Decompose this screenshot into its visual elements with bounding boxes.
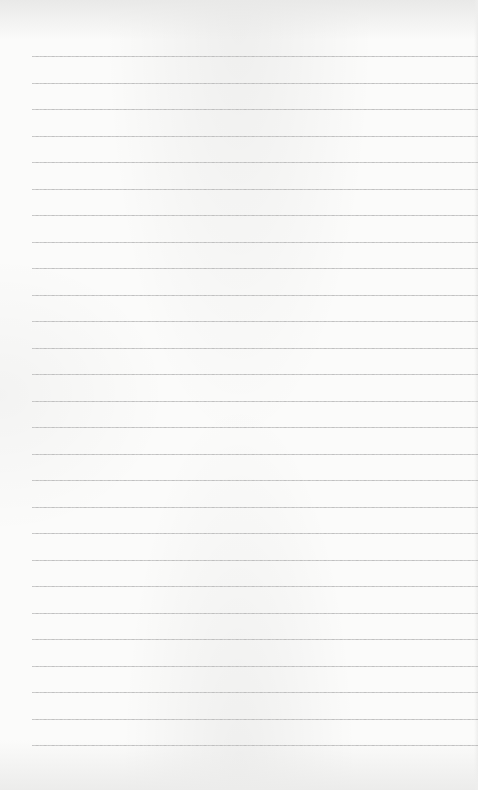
ruled-line bbox=[32, 719, 478, 720]
ruled-line bbox=[32, 109, 478, 110]
ruled-line bbox=[32, 374, 478, 375]
ruled-line bbox=[32, 454, 478, 455]
ruled-line bbox=[32, 348, 478, 349]
ruled-line bbox=[32, 692, 478, 693]
ruled-line bbox=[32, 268, 478, 269]
ruled-line bbox=[32, 162, 478, 163]
ruled-line bbox=[32, 480, 478, 481]
ruled-line bbox=[32, 401, 478, 402]
ruled-line bbox=[32, 321, 478, 322]
ruled-line bbox=[32, 745, 478, 746]
ruled-line bbox=[32, 507, 478, 508]
ruled-line bbox=[32, 83, 478, 84]
ruled-line bbox=[32, 613, 478, 614]
lined-paper-sheet bbox=[0, 0, 478, 790]
ruled-line bbox=[32, 56, 478, 57]
ruled-line bbox=[32, 136, 478, 137]
top-shadow bbox=[0, 0, 478, 40]
ruled-line bbox=[32, 639, 478, 640]
right-edge-shadow bbox=[474, 0, 478, 790]
bottom-shadow bbox=[0, 740, 478, 790]
ruled-line bbox=[32, 295, 478, 296]
ruled-line bbox=[32, 242, 478, 243]
ruled-line bbox=[32, 560, 478, 561]
ruled-line bbox=[32, 215, 478, 216]
ruled-line bbox=[32, 533, 478, 534]
ruled-line bbox=[32, 586, 478, 587]
ruled-line bbox=[32, 189, 478, 190]
ruled-line bbox=[32, 427, 478, 428]
ruled-line bbox=[32, 666, 478, 667]
